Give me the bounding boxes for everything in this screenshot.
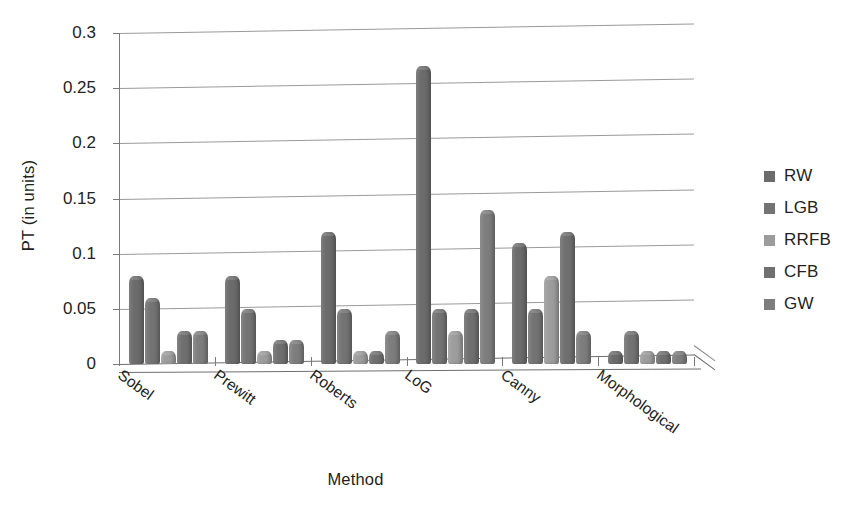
- legend-item-lgb[interactable]: LGB: [764, 192, 859, 224]
- legend-swatch-gw: [764, 299, 775, 310]
- bar-log-rrfb: [448, 331, 463, 364]
- bar-sobel-rw: [129, 276, 144, 364]
- bar-roberts-rw: [321, 232, 336, 364]
- bar-canny-rw: [512, 243, 527, 364]
- bar-log-cfb: [464, 309, 479, 364]
- x-axis-tick: [311, 357, 312, 366]
- bar-roberts-cfb: [369, 351, 384, 364]
- legend-label: LGB: [784, 198, 819, 218]
- x-axis-tick: [119, 357, 120, 366]
- legend-item-rrfb[interactable]: RRFB: [764, 224, 859, 256]
- x-axis-tick: [215, 357, 216, 366]
- y-axis-tick-label: 0.15: [0, 189, 96, 209]
- x-axis-label-log: LoG: [402, 366, 436, 398]
- y-axis-tick-label: 0.1: [0, 244, 96, 264]
- bar-canny-lgb: [528, 309, 543, 364]
- x-axis-tick: [407, 357, 408, 366]
- legend: RWLGBRRFBCFBGW: [764, 160, 859, 320]
- bar-prewitt-gw: [289, 340, 304, 364]
- x-axis-tick: [502, 357, 503, 366]
- legend-swatch-cfb: [764, 267, 775, 278]
- legend-swatch-lgb: [764, 203, 775, 214]
- legend-label: GW: [784, 294, 814, 314]
- x-axis-label-canny: Canny: [498, 366, 545, 407]
- bar-sobel-cfb: [177, 331, 192, 364]
- bar-sobel-gw: [193, 331, 208, 364]
- bar-morphological-lgb: [624, 331, 639, 364]
- bar-groups: [119, 28, 694, 364]
- legend-item-cfb[interactable]: CFB: [764, 256, 859, 288]
- bar-roberts-gw: [385, 331, 400, 364]
- bar-prewitt-rrfb: [257, 351, 272, 364]
- bar-prewitt-rw: [225, 276, 240, 364]
- bar-group-prewitt: [225, 28, 305, 364]
- bar-roberts-lgb: [337, 309, 352, 364]
- legend-label: CFB: [784, 262, 819, 282]
- x-axis-tick: [694, 357, 695, 366]
- y-axis-tick-label: 0.3: [0, 23, 96, 43]
- x-axis-title: Method: [0, 470, 711, 489]
- bar-group-sobel: [129, 28, 209, 364]
- y-axis-tick-label: 0.2: [0, 133, 96, 153]
- bar-morphological-cfb: [656, 351, 671, 364]
- bar-canny-gw: [576, 331, 591, 364]
- bar-roberts-rrfb: [353, 351, 368, 364]
- bar-morphological-gw: [672, 351, 687, 364]
- y-axis-tick-labels: 00.050.10.150.20.250.3: [0, 28, 96, 364]
- x-axis-label-roberts: Roberts: [306, 366, 360, 412]
- bar-log-lgb: [432, 309, 447, 364]
- bar-sobel-rrfb: [161, 351, 176, 364]
- y-axis-tick-label: 0.05: [0, 299, 96, 319]
- bar-log-gw: [480, 210, 495, 364]
- y-axis-tick-label: 0: [0, 354, 96, 374]
- bar-group-canny: [512, 28, 592, 364]
- bar-prewitt-lgb: [241, 309, 256, 364]
- bar-canny-rrfb: [544, 276, 559, 364]
- bar-prewitt-cfb: [273, 340, 288, 364]
- legend-swatch-rrfb: [764, 235, 775, 246]
- bar-group-morphological: [608, 28, 688, 364]
- bar-group-log: [416, 28, 496, 364]
- bar-morphological-rrfb: [640, 351, 655, 364]
- x-axis-tick: [598, 357, 599, 366]
- bar-canny-cfb: [560, 232, 575, 364]
- bar-group-roberts: [321, 28, 401, 364]
- bar-log-rw: [416, 66, 431, 364]
- legend-label: RW: [784, 166, 812, 186]
- x-axis-label-prewitt: Prewitt: [210, 366, 259, 408]
- y-axis-tick-label: 0.25: [0, 78, 96, 98]
- legend-item-gw[interactable]: GW: [764, 288, 859, 320]
- legend-label: RRFB: [784, 230, 831, 250]
- x-axis-tick-labels: SobelPrewittRobertsLoGCannyMorphological: [119, 366, 719, 466]
- x-axis-label-morphological: Morphological: [593, 366, 682, 437]
- floor-back-edge: [694, 345, 716, 361]
- legend-swatch-rw: [764, 171, 775, 182]
- x-axis-label-sobel: Sobel: [114, 366, 157, 404]
- bar-morphological-rw: [608, 351, 623, 364]
- legend-item-rw[interactable]: RW: [764, 160, 859, 192]
- bar-sobel-lgb: [145, 298, 160, 364]
- bar-chart: PT (in units) 00.050.10.150.20.250.3 Sob…: [0, 0, 861, 514]
